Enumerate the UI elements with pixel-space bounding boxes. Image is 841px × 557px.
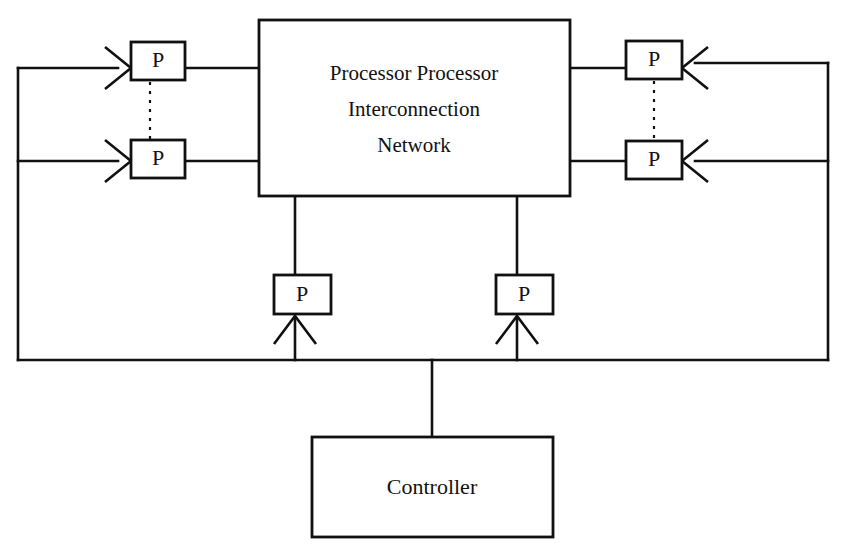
controller-block-label: Controller bbox=[387, 474, 478, 499]
p-right-bottom-label: P bbox=[648, 146, 660, 171]
network-block-label-line1: Processor Processor bbox=[330, 61, 499, 85]
p-left-top: P bbox=[131, 42, 185, 80]
p-bottom-left-label: P bbox=[296, 281, 308, 306]
network-block: Processor Processor Interconnection Netw… bbox=[259, 20, 570, 196]
controller-block: Controller bbox=[312, 437, 553, 537]
arrowhead-p-right-top bbox=[682, 47, 708, 89]
left-bus bbox=[18, 68, 118, 360]
diagram-canvas: Processor Processor Interconnection Netw… bbox=[0, 0, 841, 557]
p-bottom-right: P bbox=[496, 275, 553, 314]
network-block-label-line3: Network bbox=[377, 133, 451, 157]
p-bottom-right-label: P bbox=[518, 281, 530, 306]
p-left-top-label: P bbox=[152, 47, 164, 72]
p-left-bottom-label: P bbox=[152, 145, 164, 170]
p-right-bottom: P bbox=[626, 141, 682, 179]
p-right-top-label: P bbox=[648, 46, 660, 71]
p-left-bottom: P bbox=[131, 140, 185, 178]
network-block-label-line2: Interconnection bbox=[348, 97, 480, 121]
p-right-top: P bbox=[626, 41, 682, 79]
right-bus bbox=[695, 63, 828, 360]
p-bottom-left: P bbox=[274, 275, 331, 314]
processor-network-diagram: Processor Processor Interconnection Netw… bbox=[0, 0, 841, 557]
